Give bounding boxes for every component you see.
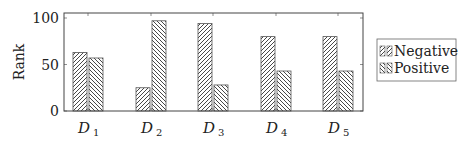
y-tick-label: 50 xyxy=(41,57,59,73)
legend-label: Negative xyxy=(394,43,458,59)
y-tick-label: 100 xyxy=(32,10,59,26)
bar-chart: 050100RankD1D2D3D4D5 NegativePositive xyxy=(0,0,472,143)
legend-label: Positive xyxy=(394,60,449,76)
x-tick-label-subscript: 1 xyxy=(93,127,99,138)
x-tick-label: D xyxy=(265,119,278,137)
x-tick-label-subscript: 5 xyxy=(343,127,349,138)
legend-swatch-icon xyxy=(387,46,392,56)
x-tick-label-subscript: 3 xyxy=(218,127,224,138)
x-tick-label-subscript: 2 xyxy=(156,127,162,138)
legend: NegativePositive xyxy=(377,39,458,81)
bar-positive xyxy=(89,58,103,111)
bar-positive xyxy=(152,21,166,111)
legend-swatch-icon xyxy=(380,63,385,73)
bar-positive xyxy=(339,71,353,111)
bar-negative xyxy=(261,37,275,111)
bar-positive xyxy=(277,71,291,111)
legend-swatch-icon xyxy=(380,46,385,56)
bar-negative xyxy=(73,52,87,111)
x-tick-label: D xyxy=(327,119,340,137)
x-tick-label: D xyxy=(77,119,90,137)
y-axis-label: Rank xyxy=(11,43,27,80)
plot-frame xyxy=(64,13,363,111)
bar-negative xyxy=(323,37,337,111)
bar-negative xyxy=(136,88,150,111)
x-tick-label: D xyxy=(202,119,215,137)
y-tick-label: 0 xyxy=(50,103,59,119)
legend-swatch-icon xyxy=(387,63,392,73)
bar-positive xyxy=(214,85,228,111)
bar-negative xyxy=(198,24,212,111)
x-tick-label-subscript: 4 xyxy=(281,127,287,138)
x-tick-label: D xyxy=(140,119,153,137)
plot-area: 050100RankD1D2D3D4D5 xyxy=(11,10,363,138)
